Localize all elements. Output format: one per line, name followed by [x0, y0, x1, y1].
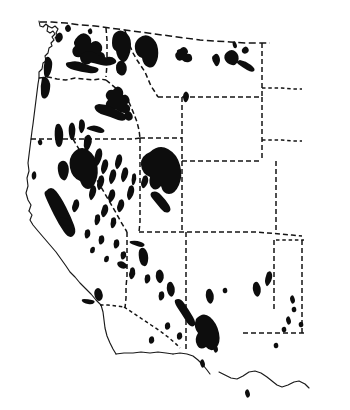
figure-root: [0, 0, 350, 410]
western-us-distribution-map: [0, 0, 350, 410]
figure-caption: [0, 396, 350, 410]
range-nm-outlier-g: [274, 343, 279, 349]
range-nm-outlier-c: [292, 307, 297, 313]
range-nm-outlier-f: [282, 327, 287, 333]
range-nm-small-dot-a: [223, 288, 228, 294]
range-nm-outlier-e: [299, 322, 304, 328]
